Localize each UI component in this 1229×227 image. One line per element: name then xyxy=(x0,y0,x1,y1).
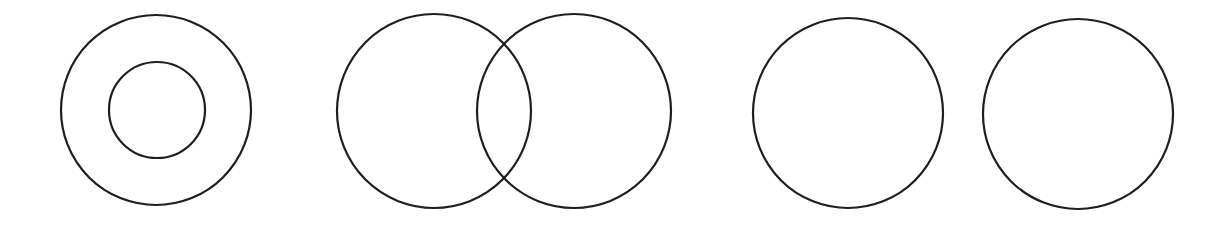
inner-circle xyxy=(109,62,205,158)
circle-relationships-diagram xyxy=(0,0,1229,227)
concentric-circles-group xyxy=(61,15,251,205)
separate-circles-group xyxy=(753,18,1173,209)
right-separate-circle xyxy=(983,19,1173,209)
left-overlapping-circle xyxy=(337,14,531,208)
outer-circle xyxy=(61,15,251,205)
overlapping-circles-group xyxy=(337,14,671,208)
right-overlapping-circle xyxy=(477,14,671,208)
left-separate-circle xyxy=(753,18,943,208)
